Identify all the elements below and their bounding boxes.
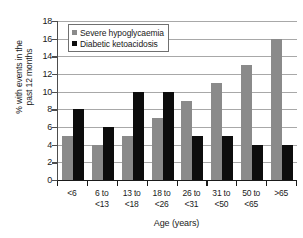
y-axis-tick-label: 14 <box>30 51 52 61</box>
x-axis-tick-mark <box>177 181 178 186</box>
legend-label: Diabetic ketoacidosis <box>80 39 158 49</box>
legend-swatch-icon <box>72 30 77 35</box>
bar <box>92 145 103 180</box>
x-axis-tick-mark <box>206 181 207 186</box>
bar-group <box>267 21 297 180</box>
x-axis-tick-mark <box>147 181 148 186</box>
y-axis-tick-label: 18 <box>30 16 52 26</box>
x-axis-tick-mark <box>87 181 88 186</box>
y-axis-tick-label: 10 <box>30 87 52 97</box>
bar <box>152 118 163 180</box>
y-axis-tick-label: 4 <box>30 140 52 150</box>
bar <box>222 136 233 180</box>
x-axis-tick-labels: <66 to <1313 to <1818 to <2626 to <3131 … <box>57 188 296 209</box>
bar-group <box>237 21 267 180</box>
x-axis-tick-label: 13 to <18 <box>117 188 147 209</box>
bar <box>282 145 293 180</box>
x-axis-tick-mark <box>296 181 297 186</box>
bar <box>103 127 114 180</box>
bar-chart-figure: % with events in the past 12 months 0246… <box>0 0 303 238</box>
bar <box>62 136 73 180</box>
x-axis-tick-mark <box>57 181 58 186</box>
x-axis-tick-mark <box>266 181 267 186</box>
y-axis-tick-label: 8 <box>30 104 52 114</box>
legend-item: Severe hypoglycaemia <box>72 27 164 38</box>
bar <box>271 39 282 180</box>
y-axis-tick-label: 0 <box>30 175 52 185</box>
bar <box>163 92 174 180</box>
bar <box>241 65 252 180</box>
x-axis-tick-label: 18 to <26 <box>147 188 177 209</box>
bar <box>181 101 192 181</box>
x-axis-tick-marks <box>57 181 296 186</box>
bar <box>252 145 263 180</box>
x-axis-tick-label: 31 to <50 <box>206 188 236 209</box>
x-axis-tick-mark <box>117 181 118 186</box>
x-axis-tick-label: >65 <box>266 188 296 209</box>
bar <box>192 136 203 180</box>
bar <box>211 83 222 180</box>
bar-group <box>207 21 237 180</box>
y-axis-tick-labels: 024681012141618 <box>30 21 52 180</box>
bar-group <box>178 21 208 180</box>
y-axis-tick-label: 2 <box>30 157 52 167</box>
chart-legend: Severe hypoglycaemiaDiabetic ketoacidosi… <box>68 24 169 52</box>
y-axis-tick-label: 16 <box>30 34 52 44</box>
bar <box>73 109 84 180</box>
bar <box>122 136 133 180</box>
bar <box>133 92 144 180</box>
x-axis-tick-label: 26 to <31 <box>177 188 207 209</box>
y-axis-tick-label: 12 <box>30 69 52 79</box>
x-axis-tick-label: <6 <box>57 188 87 209</box>
legend-swatch-icon <box>72 41 77 46</box>
legend-item: Diabetic ketoacidosis <box>72 38 164 49</box>
x-axis-tick-mark <box>236 181 237 186</box>
x-axis-tick-label: 6 to <13 <box>87 188 117 209</box>
y-axis-tick-label: 6 <box>30 122 52 132</box>
x-axis-tick-label: 50 to <65 <box>236 188 266 209</box>
x-axis-title: Age (years) <box>57 218 296 228</box>
legend-label: Severe hypoglycaemia <box>80 28 164 38</box>
